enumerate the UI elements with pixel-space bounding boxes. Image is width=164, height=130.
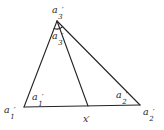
label-angle-a2-prime: a2′ xyxy=(116,85,127,101)
label-point-x-prime: x′ xyxy=(83,109,90,125)
prime-mark: ′ xyxy=(62,32,64,40)
prime-mark: ′ xyxy=(14,106,16,114)
label-subscript: 2 xyxy=(122,99,126,106)
label-text: a xyxy=(52,31,58,41)
label-text: a xyxy=(4,105,10,115)
label-subscript: 3 xyxy=(58,40,62,47)
prime-mark: ′ xyxy=(126,91,128,99)
label-angle-a3-prime: a3′ xyxy=(52,26,63,42)
prime-mark: ′ xyxy=(88,115,90,123)
label-subscript: 1 xyxy=(10,114,14,121)
label-text: a xyxy=(32,92,38,102)
prime-mark: ′ xyxy=(62,6,64,14)
label-vertex-a3-prime: a3′ xyxy=(52,0,63,16)
label-subscript: 2 xyxy=(149,116,153,123)
label-vertex-a1-prime: a1′ xyxy=(4,100,15,116)
label-text: a xyxy=(143,107,149,117)
label-vertex-a2-prime: a2′ xyxy=(143,102,154,118)
label-subscript: 3 xyxy=(58,14,62,21)
label-angle-a1-prime: a1′ xyxy=(32,87,43,103)
label-subscript: 1 xyxy=(38,101,42,108)
label-text: a xyxy=(116,90,122,100)
triangle-figure xyxy=(0,0,164,130)
prime-mark: ′ xyxy=(153,108,155,116)
triangle-diagram: a3′ a3′ a1′ a2′ a1′ a2′ x′ xyxy=(0,0,164,130)
label-text: a xyxy=(52,5,58,15)
prime-mark: ′ xyxy=(42,93,44,101)
